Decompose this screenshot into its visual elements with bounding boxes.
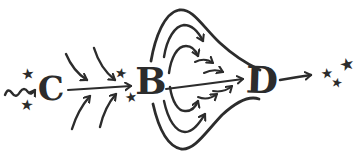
funnel-arc-bottom-inner — [170, 87, 198, 111]
node-label-c: C — [37, 68, 65, 108]
funnel-mini-arrow-top-1 — [195, 60, 213, 63]
star-icon: ★ — [19, 95, 34, 114]
converging-arrow-bottom-outer — [100, 94, 116, 127]
node-label-d: D — [245, 57, 279, 102]
wavy-input-arrow — [5, 89, 35, 96]
star-icon: ★ — [113, 64, 128, 82]
output-group: ★ ★ ★ — [280, 52, 357, 91]
hand-drawn-diagram: ★ ★ C ★ ★ B D — [0, 0, 361, 159]
c-to-b-straight-arrow — [68, 86, 131, 90]
funnel-arc-bottom-outer — [164, 101, 205, 132]
funnel-b-to-d: D — [151, 10, 279, 149]
node-label-b: B — [135, 59, 166, 103]
funnel-mini-arrow-bottom-1 — [198, 94, 217, 98]
star-icon: ★ — [337, 52, 357, 75]
diagram-sketch: ★ ★ C ★ ★ B D — [0, 0, 361, 159]
funnel-outline-bottom — [153, 98, 259, 149]
funnel-mini-arrow-bottom-2 — [213, 86, 232, 91]
converging-arrow-top-outer — [94, 48, 115, 80]
d-to-stars-arrow — [280, 75, 311, 80]
funnel-arc-top-inner — [169, 46, 198, 73]
converging-arrow-bottom-inner — [72, 96, 90, 129]
star-icon: ★ — [330, 74, 345, 91]
funnel-mini-arrow-top-2 — [204, 70, 223, 73]
funnel-outline-top — [151, 10, 260, 70]
converging-arrow-top-inner — [66, 54, 87, 80]
input-group: ★ ★ C — [5, 64, 65, 115]
star-icon: ★ — [20, 64, 36, 84]
